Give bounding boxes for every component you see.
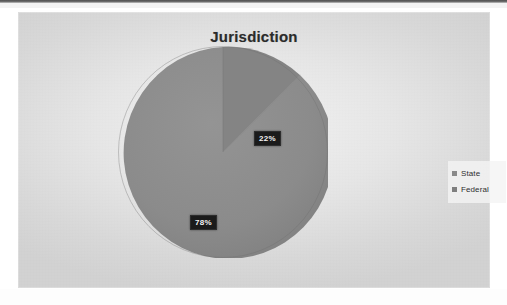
chart-legend: State Federal xyxy=(448,161,506,203)
pie-chart-graphic[interactable] xyxy=(118,46,328,258)
screenshot-root: Jurisdiction 22% 78% xyxy=(0,0,507,305)
legend-item-federal[interactable]: Federal xyxy=(452,181,503,197)
page-bottom-margin xyxy=(0,289,507,305)
pie-svg xyxy=(118,46,328,258)
legend-square-marker-icon xyxy=(452,171,457,176)
pie-chart-card: Jurisdiction 22% 78% xyxy=(18,12,490,288)
legend-item-state[interactable]: State xyxy=(452,165,503,181)
legend-label-state: State xyxy=(461,169,480,178)
data-label-state: 78% xyxy=(190,215,217,230)
legend-label-federal: Federal xyxy=(461,185,489,194)
data-label-federal: 22% xyxy=(254,131,281,146)
scan-edge-highlight xyxy=(0,3,507,8)
chart-title: Jurisdiction xyxy=(18,28,490,45)
legend-square-marker-icon xyxy=(452,187,457,192)
